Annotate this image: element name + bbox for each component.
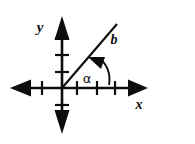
- angle-alpha-label: α: [83, 71, 92, 86]
- coordinate-plane-diagram: y x b α: [0, 0, 195, 144]
- x-axis-group: [10, 80, 148, 97]
- y-axis-group: [55, 16, 70, 134]
- x-axis-right-arrowhead: [128, 80, 148, 97]
- figure-container: y x b α: [0, 0, 195, 144]
- y-axis-top-arrowhead: [55, 16, 70, 40]
- y-axis-bottom-arrowhead: [55, 110, 70, 134]
- y-axis-label: y: [35, 19, 44, 35]
- x-axis-label: x: [135, 97, 143, 112]
- x-axis-left-arrowhead: [10, 80, 31, 97]
- angle-alpha-arrowhead: [88, 57, 105, 69]
- ray-b-label: b: [111, 32, 118, 47]
